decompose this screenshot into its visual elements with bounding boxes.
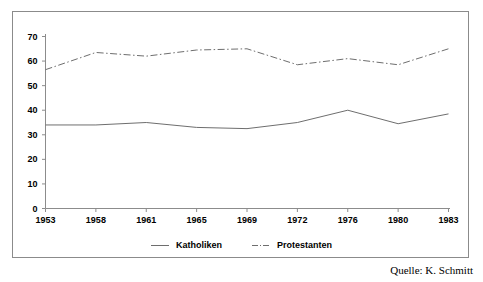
x-axis-tick-label: 1958	[86, 216, 106, 225]
x-axis-tick-label: 1972	[287, 216, 307, 225]
x-axis-tick-label: 1953	[35, 216, 55, 225]
line-chart-plot	[0, 0, 483, 282]
legend-item-protestanten[interactable]: Protestanten	[252, 241, 332, 250]
legend-label-protestanten: Protestanten	[277, 241, 332, 250]
legend-swatch-dashdot-icon	[252, 242, 270, 249]
chart-legend: Katholiken Protestanten	[0, 241, 483, 250]
y-axis-tick-label: 70	[0, 32, 38, 41]
x-axis-tick-label: 1980	[388, 216, 408, 225]
chart-figure: 010203040506070 195319581961196519691972…	[0, 0, 483, 282]
source-note: Quelle: K. Schmitt	[390, 264, 473, 276]
y-axis-tick-label: 50	[0, 81, 38, 90]
series-line-protestanten	[46, 49, 449, 70]
x-axis-tick-label: 1969	[237, 216, 257, 225]
x-axis-tick-label: 1983	[438, 216, 458, 225]
y-axis-tick-label: 60	[0, 57, 38, 66]
y-axis-tick-label: 0	[0, 204, 38, 213]
y-axis-ticks	[42, 37, 46, 209]
x-axis-tick-label: 1961	[136, 216, 156, 225]
legend-item-katholiken[interactable]: Katholiken	[151, 241, 222, 250]
y-axis-tick-label: 40	[0, 106, 38, 115]
series-line-katholiken	[46, 110, 449, 128]
legend-swatch-solid-icon	[151, 242, 169, 249]
series-lines	[46, 49, 449, 129]
legend-label-katholiken: Katholiken	[176, 241, 222, 250]
x-axis-tick-label: 1976	[338, 216, 358, 225]
x-axis-ticks	[46, 209, 449, 213]
y-axis-tick-label: 20	[0, 155, 38, 164]
y-axis-tick-label: 10	[0, 179, 38, 188]
x-axis-tick-label: 1965	[187, 216, 207, 225]
y-axis-tick-label: 30	[0, 130, 38, 139]
